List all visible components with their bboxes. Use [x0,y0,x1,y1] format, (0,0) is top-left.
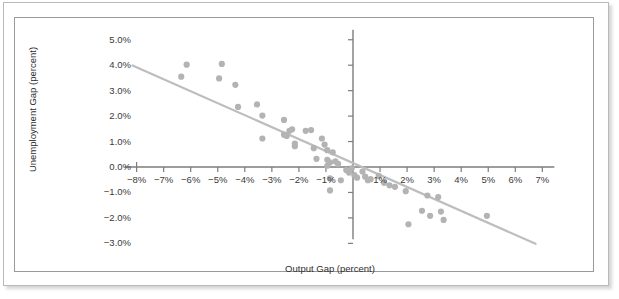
scatter-plot-area [0,0,619,299]
scatter-point [259,135,265,141]
scatter-point [219,61,225,67]
scatter-point [235,104,241,110]
scatter-point [435,194,441,200]
x-axis-tick-label: 5% [473,174,503,185]
y-axis-title: Unemployment Gap (percent) [27,40,38,180]
y-axis-tick-label: 5.0% [85,34,131,45]
scatter-point [335,161,341,167]
y-axis-tick-label: 2.0% [85,110,131,121]
scatter-point [327,159,333,165]
x-axis-tick-label: 4% [446,174,476,185]
y-axis-tick-label: −3.0% [85,237,131,248]
y-axis-tick-label: 4.0% [85,59,131,70]
y-axis-tick-label: −1.0% [85,186,131,197]
scatter-point [441,217,447,223]
x-axis-tick-label: −2% [284,174,314,185]
x-axis-tick-label: 2% [392,174,422,185]
x-axis-tick-label: 7% [527,174,557,185]
scatter-point [405,221,411,227]
x-axis-title: Output Gap (percent) [240,263,420,274]
figure-root: Unemployment Gap (percent) Output Gap (p… [0,0,619,299]
scatter-point [354,175,360,181]
scatter-point [349,165,355,171]
scatter-point [419,208,425,214]
scatter-point [232,82,238,88]
scatter-point [313,156,319,162]
scatter-point [292,140,298,146]
scatter-point [427,213,433,219]
x-axis-tick-label: −3% [257,174,287,185]
scatter-point [281,117,287,123]
chart-svg [0,0,619,299]
scatter-point [303,128,309,134]
scatter-point [327,187,333,193]
scatter-point [424,192,430,198]
scatter-point [184,62,190,68]
x-axis-tick-label: 1% [365,174,395,185]
x-axis-tick-label: −6% [176,174,206,185]
y-axis-tick-label: 3.0% [85,85,131,96]
y-axis-tick-label: 0.0% [85,161,131,172]
x-axis-tick-label: −4% [230,174,260,185]
scatter-point [403,188,409,194]
x-axis-tick-label: 3% [419,174,449,185]
scatter-point [324,147,330,153]
scatter-point [289,126,295,132]
y-axis-tick-label: 1.0% [85,136,131,147]
x-axis-tick-label: 6% [500,174,530,185]
x-axis-tick-label: −7% [149,174,179,185]
scatter-point [330,149,336,155]
scatter-point [308,127,314,133]
scatter-point [319,135,325,141]
scatter-point [484,213,490,219]
x-axis-tick-label: −1% [311,174,341,185]
y-axis-tick-label: −2.0% [85,212,131,223]
scatter-point [259,112,265,118]
scatter-point [311,145,317,151]
scatter-point [438,208,444,214]
x-axis-tick-label: −5% [203,174,233,185]
scatter-point [254,101,260,107]
scatter-point [216,75,222,81]
scatter-point [178,74,184,80]
x-axis-tick-label: −8% [122,174,152,185]
scatter-point [321,142,327,148]
